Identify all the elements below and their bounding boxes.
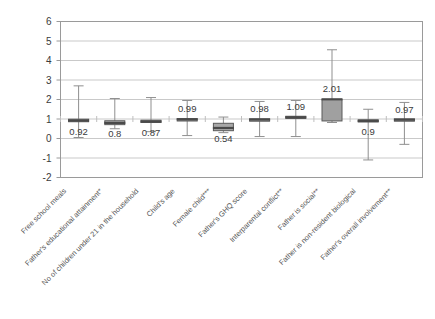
box-value-label: 0.97 bbox=[395, 104, 414, 115]
chart-canvas: -2-10123456 0.920.80.870.990.540.981.092… bbox=[0, 0, 435, 319]
y-tick-label: 1 bbox=[46, 114, 52, 125]
y-tick-label: 0 bbox=[46, 133, 52, 144]
box-value-label: 0.92 bbox=[69, 126, 88, 137]
y-tick-label: -1 bbox=[43, 153, 52, 164]
box-rect bbox=[322, 100, 342, 121]
box-value-label: 0.9 bbox=[362, 126, 375, 137]
box-value-label: 0.99 bbox=[178, 103, 197, 114]
box-value-label: 0.8 bbox=[108, 128, 121, 139]
box-value-label: 2.01 bbox=[323, 83, 342, 94]
y-tick-label: 2 bbox=[46, 94, 52, 105]
y-tick-label: 6 bbox=[46, 16, 52, 27]
y-tick-label: -2 bbox=[43, 172, 52, 183]
box-value-label: 0.87 bbox=[142, 127, 161, 138]
box-value-label: 1.09 bbox=[287, 101, 306, 112]
box-value-label: 0.54 bbox=[214, 133, 233, 144]
y-tick-label: 4 bbox=[46, 55, 52, 66]
box-plot-figure: -2-10123456 0.920.80.870.990.540.981.092… bbox=[0, 0, 435, 319]
y-tick-label: 5 bbox=[46, 36, 52, 47]
box-value-label: 0.98 bbox=[250, 103, 269, 114]
y-tick-label: 3 bbox=[46, 75, 52, 86]
